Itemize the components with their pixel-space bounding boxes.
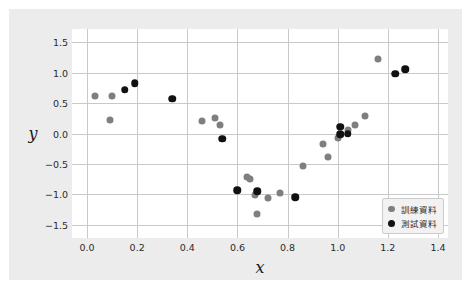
data-point-test bbox=[131, 79, 139, 87]
data-point-train bbox=[374, 56, 381, 63]
x-tick-label: 0.6 bbox=[230, 242, 245, 253]
legend-item-test: 測試資料 bbox=[388, 217, 437, 229]
data-point-test bbox=[254, 187, 262, 195]
x-tick-label: 0.4 bbox=[180, 242, 195, 253]
gridline-vertical bbox=[187, 29, 188, 238]
legend-marker-test-icon bbox=[388, 220, 395, 227]
data-point-train bbox=[109, 93, 116, 100]
data-point-test bbox=[344, 130, 352, 138]
data-point-test bbox=[219, 135, 227, 143]
data-point-test bbox=[392, 70, 400, 78]
gridline-vertical bbox=[137, 29, 138, 238]
data-point-train bbox=[299, 163, 306, 170]
gridline-vertical bbox=[288, 29, 289, 238]
legend-label-test: 測試資料 bbox=[401, 217, 437, 229]
data-point-train bbox=[254, 210, 261, 217]
gridline-vertical bbox=[87, 29, 88, 238]
y-tick-label: 0.0 bbox=[53, 128, 68, 139]
figure-canvas: 訓練資料 測試資料 1.51.00.50.0−0.5−1.0−1.5 0.00.… bbox=[9, 9, 462, 280]
x-axis-tick-labels: 0.00.20.40.60.81.01.21.4 bbox=[72, 242, 448, 256]
data-point-train bbox=[362, 112, 369, 119]
data-point-train bbox=[324, 154, 331, 161]
x-tick-label: 0.2 bbox=[130, 242, 145, 253]
data-point-train bbox=[91, 93, 98, 100]
data-point-train bbox=[211, 114, 218, 121]
data-point-test bbox=[291, 194, 299, 202]
data-point-test bbox=[234, 186, 242, 194]
x-tick-label: 0.8 bbox=[280, 242, 295, 253]
legend-marker-train-icon bbox=[388, 206, 395, 213]
x-tick-label: 1.0 bbox=[330, 242, 345, 253]
y-axis-label: y bbox=[28, 124, 37, 143]
y-tick-label: −1.0 bbox=[45, 189, 68, 200]
data-point-test bbox=[169, 95, 177, 103]
data-point-test bbox=[336, 130, 344, 138]
gridline-horizontal bbox=[72, 103, 448, 104]
data-point-train bbox=[264, 194, 271, 201]
legend-label-train: 訓練資料 bbox=[401, 203, 437, 215]
data-point-train bbox=[199, 118, 206, 125]
gridline-horizontal bbox=[72, 42, 448, 43]
data-point-train bbox=[216, 121, 223, 128]
y-tick-label: 1.5 bbox=[53, 37, 68, 48]
data-point-train bbox=[246, 176, 253, 183]
y-tick-label: −1.5 bbox=[45, 219, 68, 230]
x-tick-label: 0.0 bbox=[79, 242, 94, 253]
data-point-test bbox=[121, 86, 129, 94]
data-point-train bbox=[106, 117, 113, 124]
y-tick-label: 1.0 bbox=[53, 67, 68, 78]
y-tick-label: −0.5 bbox=[45, 158, 68, 169]
legend-item-train: 訓練資料 bbox=[388, 203, 437, 215]
data-point-train bbox=[319, 140, 326, 147]
x-tick-label: 1.2 bbox=[380, 242, 395, 253]
x-tick-label: 1.4 bbox=[430, 242, 445, 253]
gridline-horizontal bbox=[72, 134, 448, 135]
legend[interactable]: 訓練資料 測試資料 bbox=[382, 198, 444, 234]
data-point-train bbox=[352, 121, 359, 128]
gridline-horizontal bbox=[72, 164, 448, 165]
data-point-train bbox=[277, 190, 284, 197]
plot-area: 訓練資料 測試資料 bbox=[72, 29, 448, 238]
data-point-test bbox=[402, 65, 410, 73]
gridline-vertical bbox=[237, 29, 238, 238]
y-tick-label: 0.5 bbox=[53, 98, 68, 109]
x-axis-label: x bbox=[255, 258, 264, 277]
